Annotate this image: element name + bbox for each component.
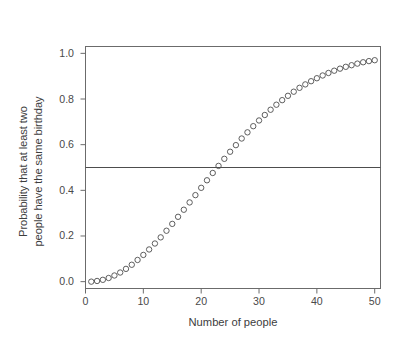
x-axis-tick-label: 30 bbox=[244, 295, 274, 307]
data-point bbox=[89, 279, 94, 284]
data-point bbox=[262, 112, 267, 117]
y-axis-tick-label-text: 0.2 bbox=[48, 229, 74, 241]
data-point bbox=[326, 70, 331, 75]
data-point bbox=[245, 130, 250, 135]
data-point bbox=[222, 156, 227, 161]
data-point bbox=[175, 214, 180, 219]
data-point bbox=[239, 136, 244, 141]
data-point bbox=[332, 68, 337, 73]
x-axis-tick-label: 20 bbox=[186, 295, 216, 307]
data-point bbox=[251, 123, 256, 128]
data-point bbox=[233, 142, 238, 147]
data-point bbox=[291, 89, 296, 94]
data-point bbox=[164, 228, 169, 233]
data-point bbox=[227, 149, 232, 154]
x-axis-tick-label: 10 bbox=[128, 295, 158, 307]
x-axis-tick-label: 50 bbox=[360, 295, 390, 307]
data-point bbox=[320, 73, 325, 78]
y-axis-tick-label: 1.0 bbox=[48, 47, 74, 60]
data-point bbox=[274, 102, 279, 107]
x-axis-tick-label: 0 bbox=[71, 295, 101, 307]
x-axis-tick-label: 40 bbox=[302, 295, 332, 307]
data-point bbox=[337, 66, 342, 71]
chart-figure: Probability that at least two people hav… bbox=[0, 0, 400, 343]
y-axis-tick-label-text: 0.8 bbox=[48, 93, 74, 105]
data-point bbox=[158, 235, 163, 240]
data-point bbox=[141, 252, 146, 257]
data-point bbox=[297, 85, 302, 90]
data-point bbox=[94, 278, 99, 283]
data-point bbox=[256, 118, 261, 123]
y-axis-tick-label: 0.0 bbox=[48, 275, 74, 288]
data-point bbox=[349, 63, 354, 68]
data-point bbox=[135, 257, 140, 262]
y-axis-tick-label-text: 0.4 bbox=[48, 184, 74, 196]
data-point bbox=[285, 93, 290, 98]
data-point bbox=[360, 60, 365, 65]
data-point bbox=[210, 170, 215, 175]
y-axis-tick-label: 0.8 bbox=[48, 93, 74, 106]
data-point bbox=[181, 207, 186, 212]
data-point bbox=[106, 275, 111, 280]
data-point bbox=[187, 200, 192, 205]
data-point bbox=[366, 58, 371, 63]
y-axis-tick-label: 0.6 bbox=[48, 138, 74, 151]
data-point bbox=[123, 266, 128, 271]
y-axis-tick-label: 0.2 bbox=[48, 229, 74, 242]
data-point bbox=[112, 273, 117, 278]
data-point bbox=[198, 185, 203, 190]
data-point bbox=[372, 58, 377, 63]
data-series bbox=[89, 58, 378, 285]
data-point bbox=[204, 178, 209, 183]
data-point bbox=[308, 79, 313, 84]
data-point bbox=[170, 221, 175, 226]
y-axis-tick-label: 0.4 bbox=[48, 184, 74, 197]
data-point bbox=[100, 277, 105, 282]
data-point bbox=[129, 262, 134, 267]
data-point bbox=[355, 61, 360, 66]
data-point bbox=[152, 241, 157, 246]
y-axis-tick-label-text: 0.6 bbox=[48, 138, 74, 150]
data-point bbox=[193, 192, 198, 197]
data-point bbox=[279, 97, 284, 102]
data-point bbox=[303, 82, 308, 87]
data-point bbox=[268, 107, 273, 112]
data-point bbox=[314, 76, 319, 81]
x-axis-label: Number of people bbox=[85, 316, 381, 328]
data-point bbox=[343, 64, 348, 69]
y-axis-tick-label-text: 0.0 bbox=[48, 275, 74, 287]
data-point bbox=[118, 270, 123, 275]
data-point bbox=[146, 247, 151, 252]
y-axis-tick-label-text: 1.0 bbox=[48, 47, 74, 59]
